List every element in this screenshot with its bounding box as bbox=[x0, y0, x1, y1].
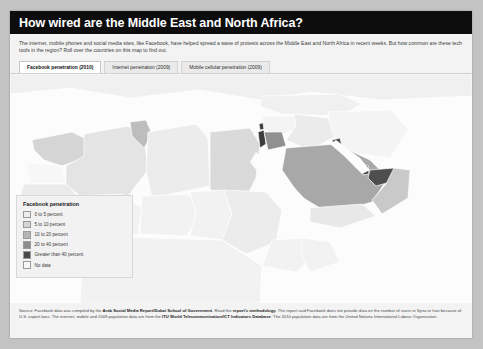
map-legend: Facebook penetration 0 to 5 percent 5 to… bbox=[16, 195, 133, 279]
header-bar: How wired are the Middle East and North … bbox=[10, 11, 472, 34]
legend-swatch bbox=[23, 211, 31, 219]
legend-swatch bbox=[23, 221, 31, 229]
legend-title: Facebook penetration bbox=[23, 201, 126, 207]
tab-facebook-penetration[interactable]: Facebook penetration (2010) bbox=[19, 61, 101, 73]
deck: The internet, mobile phones and social m… bbox=[10, 34, 472, 59]
legend-item-0-to-5: 0 to 5 percent bbox=[23, 211, 126, 219]
footnote-link-itu-database[interactable]: ITU World Telecommunication/ICT Indicato… bbox=[162, 314, 271, 319]
legend-item-20-to-40: 20 to 40 percent bbox=[23, 241, 126, 249]
tab-bar: Facebook penetration (2010) Internet pen… bbox=[10, 59, 472, 74]
legend-label: 0 to 5 percent bbox=[35, 212, 63, 217]
tab-mobile-cellular-penetration[interactable]: Mobile cellular penetration (2009) bbox=[181, 61, 270, 73]
legend-item-no-data: No data bbox=[23, 261, 126, 269]
legend-swatch bbox=[23, 261, 31, 269]
legend-swatch bbox=[23, 231, 31, 239]
page-title: How wired are the Middle East and North … bbox=[19, 16, 303, 30]
infographic-card: How wired are the Middle East and North … bbox=[10, 11, 472, 338]
screenshot-root: How wired are the Middle East and North … bbox=[0, 0, 483, 349]
deck-text: The internet, mobile phones and social m… bbox=[19, 40, 463, 55]
legend-swatch bbox=[23, 251, 31, 259]
legend-label: Greater than 40 percent bbox=[35, 252, 84, 257]
tab-label: Internet penetration (2009) bbox=[112, 65, 170, 70]
legend-label: 10 to 20 percent bbox=[35, 232, 68, 237]
footnote-mid-3: . The 2010 population data are from the … bbox=[271, 314, 438, 319]
legend-label: 5 to 10 percent bbox=[35, 222, 66, 227]
footnote-source-prefix: Source: Facebook data was compiled by th… bbox=[19, 308, 103, 313]
footnote: Source: Facebook data was compiled by th… bbox=[10, 303, 472, 327]
legend-swatch bbox=[23, 241, 31, 249]
legend-item-5-to-10: 5 to 10 percent bbox=[23, 221, 126, 229]
choropleth-map[interactable]: Facebook penetration 0 to 5 percent 5 to… bbox=[10, 74, 472, 303]
legend-item-10-to-20: 10 to 20 percent bbox=[23, 231, 126, 239]
footnote-link-arab-social-media-report[interactable]: Arab Social Media Report/Dubai School of… bbox=[103, 308, 213, 313]
footnote-link-methodology[interactable]: report's methodology bbox=[233, 308, 276, 313]
tab-label: Facebook penetration (2010) bbox=[27, 65, 93, 70]
legend-item-greater-than-40: Greater than 40 percent bbox=[23, 251, 126, 259]
tab-internet-penetration[interactable]: Internet penetration (2009) bbox=[104, 61, 178, 73]
footnote-text: Source: Facebook data was compiled by th… bbox=[19, 308, 463, 320]
tab-label: Mobile cellular penetration (2009) bbox=[189, 65, 262, 70]
legend-label: No data bbox=[35, 263, 51, 268]
legend-label: 20 to 40 percent bbox=[35, 242, 68, 247]
region-libya bbox=[146, 124, 210, 198]
footnote-mid-1: . Read the bbox=[212, 308, 233, 313]
